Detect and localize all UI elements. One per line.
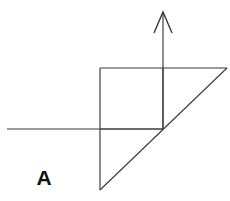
figure-label-a: A bbox=[33, 167, 55, 189]
geometry-figure: A bbox=[0, 0, 230, 201]
